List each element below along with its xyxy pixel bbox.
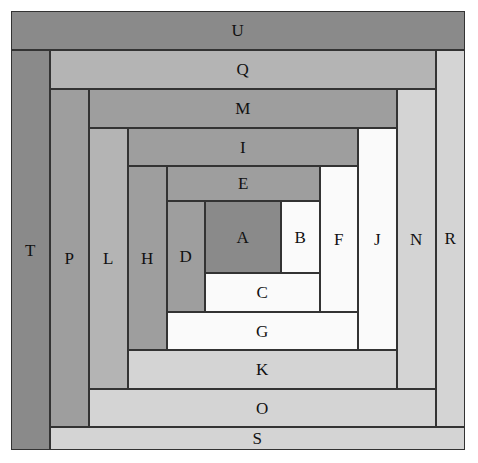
region-label: B [295,229,307,246]
region-o: O [89,389,436,427]
region-q: Q [50,50,436,89]
region-label: U [232,22,245,39]
spiral-rectangle-diagram: ABCDEFGHIJKLMNOPQRSTU [0,0,478,463]
region-label: P [65,250,75,267]
region-label: K [256,361,269,378]
region-label: M [235,100,251,117]
region-label: H [141,250,154,267]
region-label: F [334,231,344,248]
region-s: S [50,427,465,450]
region-label: T [25,242,36,259]
region-label: R [445,230,457,247]
region-t: T [11,50,50,450]
region-u: U [11,11,465,50]
region-c: C [205,273,320,312]
region-label: E [238,175,249,192]
region-g: G [167,312,358,350]
region-m: M [89,89,397,128]
region-label: D [180,248,193,265]
region-label: C [257,284,269,301]
region-r: R [436,50,465,427]
region-d: D [167,201,205,312]
region-f: F [320,166,358,312]
region-label: O [256,400,269,417]
region-label: J [374,231,381,248]
region-k: K [128,350,397,389]
region-l: L [89,128,128,389]
region-label: G [256,323,269,340]
region-h: H [128,166,167,350]
region-e: E [167,166,320,201]
region-n: N [397,89,436,389]
region-label: I [240,139,246,156]
region-label: N [410,231,423,248]
region-label: L [103,250,114,267]
region-label: Q [237,61,250,78]
region-i: I [128,128,358,166]
region-b: B [281,201,320,273]
region-a: A [205,201,281,273]
region-label: A [237,229,250,246]
region-j: J [358,128,397,350]
region-p: P [50,89,89,427]
region-label: S [253,430,263,447]
